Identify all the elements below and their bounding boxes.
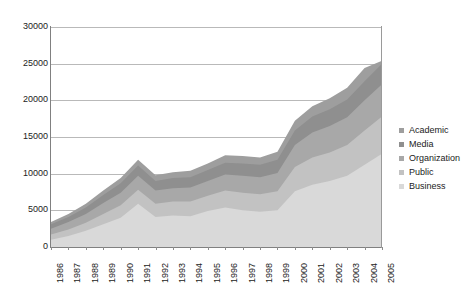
area-series-group (51, 27, 382, 247)
x-axis-tick-label: 1990 (125, 263, 135, 283)
x-axis-tick-label: 1998 (264, 263, 274, 283)
x-axis-tick-mark (51, 247, 52, 250)
legend-item-organization[interactable]: Organization (399, 152, 471, 165)
y-axis-tick-label: 5000 (4, 205, 48, 214)
legend-item-label: Organization (409, 154, 460, 163)
legend-item-label: Business (409, 182, 446, 191)
legend-item-label: Academic (409, 126, 449, 135)
x-axis-labels: 1986198719881989199019911992199319941995… (51, 249, 382, 304)
x-axis-tick-mark (295, 247, 296, 250)
x-axis-line (50, 247, 382, 248)
x-axis-tick-mark (365, 247, 366, 250)
y-axis-tick-label: 20000 (4, 95, 48, 104)
y-axis-tick-label: 0 (4, 242, 48, 251)
x-axis-tick-mark (277, 247, 278, 250)
x-axis-tick-mark (68, 247, 69, 250)
x-axis-tick-label: 2000 (299, 263, 309, 283)
legend-item-academic[interactable]: Academic (399, 124, 471, 137)
legend-swatch-icon (399, 156, 404, 161)
x-axis-tick-label: 1993 (177, 263, 187, 283)
legend-item-media[interactable]: Media (399, 138, 471, 151)
x-axis-tick-label: 2003 (351, 263, 361, 283)
x-axis-tick-label: 1986 (55, 263, 65, 283)
x-axis-tick-label: 2004 (369, 263, 379, 283)
x-axis-tick-label: 1994 (194, 263, 204, 283)
x-axis-tick-mark (121, 247, 122, 250)
legend-item-label: Public (409, 168, 434, 177)
x-axis-tick-label: 2005 (386, 263, 396, 283)
x-axis-tick-mark (86, 247, 87, 250)
y-axis-tick-label: 25000 (4, 59, 48, 68)
x-axis-tick-mark (330, 247, 331, 250)
legend-item-public[interactable]: Public (399, 166, 471, 179)
x-axis-tick-label: 1988 (90, 263, 100, 283)
legend-swatch-icon (399, 142, 404, 147)
legend-item-label: Media (409, 140, 434, 149)
x-axis-tick-mark (190, 247, 191, 250)
x-axis-tick-mark (138, 247, 139, 250)
x-axis-tick-label: 1996 (229, 263, 239, 283)
x-axis-tick-label: 1992 (160, 263, 170, 283)
y-axis-tick-label: 10000 (4, 169, 48, 178)
x-axis-tick-mark (156, 247, 157, 250)
plot-right-edge (381, 26, 382, 248)
x-axis-tick-label: 1999 (281, 263, 291, 283)
x-axis-tick-mark (173, 247, 174, 250)
plot-area (51, 27, 382, 247)
y-axis-tick-label: 30000 (4, 22, 48, 31)
x-axis-tick-label: 2002 (334, 263, 344, 283)
legend-swatch-icon (399, 128, 404, 133)
x-axis-tick-mark (347, 247, 348, 250)
y-axis-tick-label: 15000 (4, 132, 48, 141)
x-axis-tick-mark (312, 247, 313, 250)
x-axis-tick-mark (243, 247, 244, 250)
x-axis-tick-mark (208, 247, 209, 250)
x-axis-tick-mark (103, 247, 104, 250)
y-axis-labels: 300002500020000150001000050000 (0, 0, 48, 304)
legend-swatch-icon (399, 170, 404, 175)
x-axis-tick-label: 1997 (247, 263, 257, 283)
x-axis-tick-label: 1987 (72, 263, 82, 283)
x-axis-tick-label: 1995 (212, 263, 222, 283)
chart-legend: AcademicMediaOrganizationPublicBusiness (399, 124, 471, 194)
x-axis-tick-label: 2001 (316, 263, 326, 283)
y-axis-line (50, 26, 51, 248)
x-axis-tick-mark (260, 247, 261, 250)
legend-swatch-icon (399, 184, 404, 189)
stacked-area-chart: 300002500020000150001000050000 198619871… (0, 0, 471, 304)
x-axis-tick-mark (225, 247, 226, 250)
x-axis-tick-label: 1989 (107, 263, 117, 283)
x-axis-tick-mark (382, 247, 383, 250)
x-axis-tick-label: 1991 (142, 263, 152, 283)
legend-item-business[interactable]: Business (399, 180, 471, 193)
